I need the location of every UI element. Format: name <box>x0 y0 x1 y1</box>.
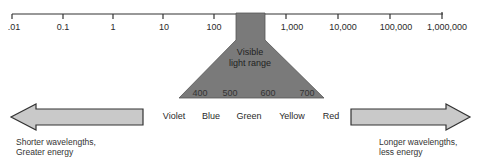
right-arrow-icon <box>351 104 470 130</box>
color-yellow: Yellow <box>279 111 305 121</box>
right-note-line2: less energy <box>379 147 457 157</box>
color-green: Green <box>236 111 261 121</box>
visible-label-line1: Visible <box>229 47 271 58</box>
wavelength-label: 400 <box>192 88 207 98</box>
tick-label: 1 <box>110 22 115 32</box>
tick-label: 1,000,000 <box>427 22 467 32</box>
tick-label: 100 <box>206 22 221 32</box>
wavelength-label: 500 <box>222 88 237 98</box>
visible-range-label: Visible light range <box>229 47 271 69</box>
tick-label: .01 <box>8 22 21 32</box>
tick-label: 1,000 <box>281 22 304 32</box>
wavelength-label: 700 <box>299 88 314 98</box>
wavelength-label: 600 <box>260 88 275 98</box>
left-arrow-icon <box>11 104 143 130</box>
left-note-line2: Greater energy <box>16 147 96 157</box>
tick-label: 10 <box>159 22 169 32</box>
color-blue: Blue <box>202 111 220 121</box>
left-note: Shorter wavelengths, Greater energy <box>16 137 96 157</box>
color-red: Red <box>323 111 340 121</box>
tick-label: 100,000 <box>380 22 413 32</box>
tick-label: 0.1 <box>57 22 70 32</box>
visible-label-line2: light range <box>229 58 271 69</box>
left-note-line1: Shorter wavelengths, <box>16 137 96 147</box>
tick-label: 10,000 <box>329 22 357 32</box>
color-violet: Violet <box>163 111 185 121</box>
right-note-line1: Longer wavelengths, <box>379 137 457 147</box>
right-note: Longer wavelengths, less energy <box>379 137 457 157</box>
axis-ticks <box>12 12 442 19</box>
